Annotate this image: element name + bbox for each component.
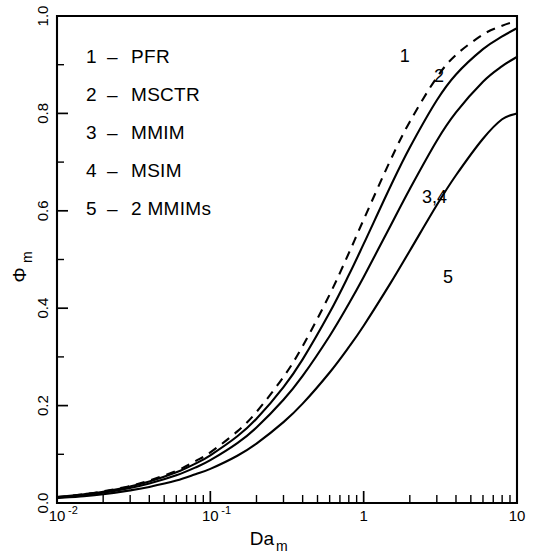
- legend-entry-dash: –: [107, 198, 118, 219]
- curve-series-4: [57, 113, 517, 498]
- x-axis-title-subscript: m: [276, 538, 288, 554]
- y-axis-tick-labels: 0.00.20.40.60.81.0: [34, 6, 51, 514]
- y-tick-label-text: 1.0: [34, 6, 51, 27]
- legend-entry-name: MSIM: [131, 160, 182, 181]
- legend-entry-3: 3–MMIM: [86, 122, 185, 143]
- x-axis-tick-labels: 10-210-1110: [49, 504, 526, 524]
- y-axis-title-base: Φ: [9, 267, 30, 282]
- chart-figure: 0.00.20.40.60.81.0 10-210-1110 123,45 Φ …: [0, 0, 542, 560]
- legend-entry-number: 3: [86, 122, 97, 143]
- y-tick-label-text: 0.8: [34, 103, 51, 124]
- legend-entry-dash: –: [107, 160, 118, 181]
- curve-series-2: [57, 28, 517, 497]
- x-tick-label: 10: [509, 507, 526, 524]
- curve-series-1: [57, 21, 517, 497]
- legend-entry-name: MSCTR: [131, 84, 200, 105]
- y-tick-label: 0.8: [34, 103, 51, 124]
- x-tick-label-exponent: -2: [68, 504, 78, 516]
- legend-entry-name: 2 MMIMs: [131, 198, 211, 219]
- y-tick-label: 0.2: [34, 395, 51, 416]
- legend-entry-name: MMIM: [131, 122, 185, 143]
- legend-entry-dash: –: [107, 46, 118, 67]
- legend-entry-1: 1–PFR: [86, 46, 170, 67]
- y-axis-title-subscript: m: [19, 251, 35, 263]
- y-tick-label: 0.4: [34, 298, 51, 319]
- y-tick-label-text: 0.4: [34, 298, 51, 319]
- y-tick-label-text: 0.6: [34, 200, 51, 221]
- curve-number-labels: 123,45: [400, 46, 453, 287]
- x-tick-label-mantissa: 10: [49, 507, 66, 524]
- legend-entry-number: 4: [86, 160, 97, 181]
- y-tick-label: 1.0: [34, 6, 51, 27]
- curve-label-3: 3,4: [422, 187, 447, 207]
- y-axis-title: Φ m: [9, 251, 35, 282]
- x-tick-label-mantissa: 10: [202, 507, 219, 524]
- curve-label-1: 1: [400, 46, 410, 66]
- legend-entry-dash: –: [107, 84, 118, 105]
- x-tick-label-exponent: -1: [221, 504, 231, 516]
- y-tick-label-text: 0.2: [34, 395, 51, 416]
- legend-entry-number: 5: [86, 198, 97, 219]
- legend-entry-name: PFR: [131, 46, 170, 67]
- chart-plot-area: 0.00.20.40.60.81.0 10-210-1110 123,45 Φ …: [0, 0, 542, 560]
- legend-entry-number: 1: [86, 46, 97, 67]
- data-curves: [57, 21, 517, 498]
- x-axis-ticks: [57, 491, 517, 503]
- y-axis-ticks: [57, 16, 68, 503]
- legend-entry-2: 2–MSCTR: [86, 84, 200, 105]
- axes-border: [57, 16, 517, 503]
- x-tick-label: 1: [359, 507, 367, 524]
- x-tick-label: 10-2: [49, 504, 78, 524]
- x-tick-label: 10-1: [202, 504, 231, 524]
- x-axis-title-base: Da: [250, 528, 275, 549]
- legend: 1–PFR2–MSCTR3–MMIM4–MSIM5–2 MMIMs: [86, 46, 211, 219]
- legend-entry-5: 5–2 MMIMs: [86, 198, 211, 219]
- legend-entry-number: 2: [86, 84, 97, 105]
- legend-entry-dash: –: [107, 122, 118, 143]
- legend-entry-4: 4–MSIM: [86, 160, 182, 181]
- x-axis-title: Da m: [250, 528, 288, 554]
- y-tick-label: 0.6: [34, 200, 51, 221]
- x-tick-label-mantissa: 1: [359, 507, 367, 524]
- curve-label-2: 2: [434, 66, 444, 86]
- plot-frame: [57, 16, 517, 503]
- curve-label-4: 5: [443, 267, 453, 287]
- x-tick-label-mantissa: 10: [509, 507, 526, 524]
